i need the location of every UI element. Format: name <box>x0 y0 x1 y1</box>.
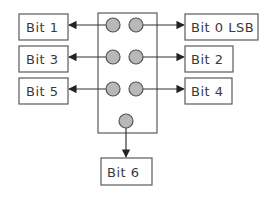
dot-bit5 <box>106 82 120 96</box>
dot-bit1 <box>106 18 120 32</box>
label-bit5: Bit 5 <box>26 84 59 99</box>
dot-bit0 <box>129 18 143 32</box>
dot-bit4 <box>129 82 143 96</box>
bit-layout-diagram: Bit 1 Bit 3 Bit 5 Bit 0 LSB Bit 2 Bit 4 … <box>0 0 272 201</box>
label-bit0-lsb: Bit 0 LSB <box>191 20 254 35</box>
label-bit6: Bit 6 <box>107 165 140 180</box>
dot-bit3 <box>106 50 120 64</box>
label-bit2: Bit 2 <box>191 52 224 67</box>
label-bit1: Bit 1 <box>26 20 59 35</box>
label-bit4: Bit 4 <box>191 84 224 99</box>
label-bit3: Bit 3 <box>26 52 59 67</box>
dot-bit6 <box>119 114 133 128</box>
dot-bit2 <box>129 50 143 64</box>
